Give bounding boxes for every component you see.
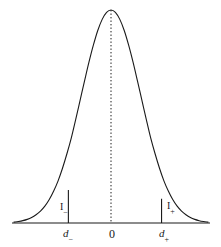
left-tail-region-label: I− xyxy=(60,202,68,215)
distribution-plot-svg xyxy=(0,0,221,247)
right-tail-region-label: I+ xyxy=(167,201,175,214)
left-critical-label-subscript: − xyxy=(69,235,74,244)
right-critical-label-subscript: + xyxy=(165,235,170,244)
left-tail-label-subscript: − xyxy=(63,208,68,217)
origin-label: 0 xyxy=(109,228,115,240)
right-critical-label-base: d xyxy=(159,227,165,239)
right-tail-label-subscript: + xyxy=(170,207,175,216)
left-critical-value-label: d− xyxy=(63,228,73,242)
right-critical-value-label: d+ xyxy=(159,228,169,242)
normal-distribution-figure: I− I+ d− 0 d+ xyxy=(0,0,221,247)
left-critical-label-base: d xyxy=(63,227,69,239)
